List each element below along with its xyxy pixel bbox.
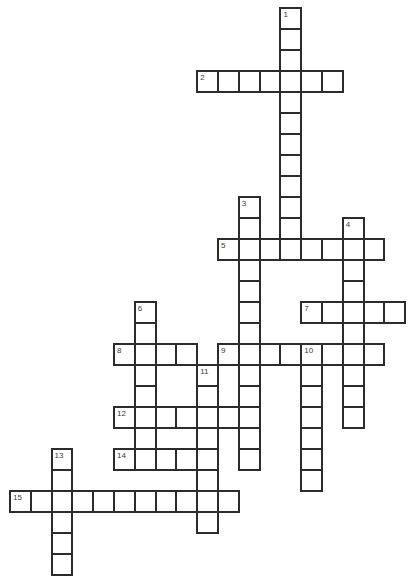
crossword-cell[interactable]	[363, 238, 386, 261]
crossword-cell[interactable]	[279, 175, 302, 198]
crossword-cell[interactable]	[363, 343, 386, 366]
crossword-cell[interactable]	[134, 364, 157, 387]
crossword-cell[interactable]	[300, 427, 323, 450]
crossword-cell[interactable]	[134, 427, 157, 450]
crossword-cell[interactable]	[238, 427, 261, 450]
crossword-cell[interactable]	[51, 511, 74, 534]
crossword-cell[interactable]: 14	[113, 448, 136, 471]
crossword-cell[interactable]	[300, 70, 323, 93]
crossword-cell[interactable]	[134, 448, 157, 471]
crossword-cell[interactable]	[155, 448, 178, 471]
crossword-cell[interactable]	[238, 301, 261, 324]
crossword-cell[interactable]: 6	[134, 301, 157, 324]
crossword-cell[interactable]	[134, 490, 157, 513]
crossword-cell[interactable]	[279, 70, 302, 93]
crossword-cell[interactable]	[238, 448, 261, 471]
crossword-cell[interactable]	[342, 406, 365, 429]
crossword-cell[interactable]	[300, 238, 323, 261]
crossword-cell[interactable]	[342, 343, 365, 366]
crossword-cell[interactable]	[279, 238, 302, 261]
crossword-cell[interactable]	[175, 406, 198, 429]
crossword-cell[interactable]	[196, 427, 219, 450]
crossword-cell[interactable]	[342, 280, 365, 303]
crossword-cell[interactable]	[217, 70, 240, 93]
crossword-cell[interactable]	[342, 322, 365, 345]
crossword-cell[interactable]	[196, 385, 219, 408]
crossword-cell[interactable]: 5	[217, 238, 240, 261]
crossword-cell[interactable]	[175, 448, 198, 471]
crossword-cell[interactable]	[238, 70, 261, 93]
crossword-cell[interactable]	[238, 280, 261, 303]
crossword-cell[interactable]	[300, 385, 323, 408]
crossword-cell[interactable]	[238, 406, 261, 429]
crossword-cell[interactable]	[51, 490, 74, 513]
crossword-cell[interactable]	[300, 448, 323, 471]
crossword-cell[interactable]	[238, 217, 261, 240]
crossword-cell[interactable]	[363, 301, 386, 324]
crossword-cell[interactable]	[92, 490, 115, 513]
crossword-cell[interactable]	[279, 217, 302, 240]
crossword-cell[interactable]	[321, 238, 344, 261]
crossword-cell[interactable]	[51, 532, 74, 555]
crossword-cell[interactable]: 7	[300, 301, 323, 324]
crossword-cell[interactable]	[279, 343, 302, 366]
crossword-cell[interactable]	[196, 448, 219, 471]
crossword-cell[interactable]	[300, 364, 323, 387]
crossword-cell[interactable]	[279, 133, 302, 156]
crossword-cell[interactable]	[342, 238, 365, 261]
crossword-cell[interactable]: 3	[238, 196, 261, 219]
crossword-cell[interactable]	[342, 364, 365, 387]
crossword-cell[interactable]	[238, 322, 261, 345]
crossword-cell[interactable]	[134, 385, 157, 408]
crossword-cell[interactable]	[175, 490, 198, 513]
crossword-cell[interactable]	[300, 406, 323, 429]
crossword-cell[interactable]	[238, 238, 261, 261]
crossword-cell[interactable]	[279, 196, 302, 219]
crossword-cell[interactable]	[342, 301, 365, 324]
crossword-cell[interactable]	[279, 28, 302, 51]
crossword-cell[interactable]	[71, 490, 94, 513]
crossword-cell[interactable]	[217, 406, 240, 429]
crossword-cell[interactable]	[238, 385, 261, 408]
crossword-cell[interactable]: 12	[113, 406, 136, 429]
crossword-cell[interactable]	[321, 301, 344, 324]
crossword-cell[interactable]	[321, 70, 344, 93]
crossword-cell[interactable]	[30, 490, 53, 513]
crossword-cell[interactable]	[155, 343, 178, 366]
crossword-cell[interactable]	[383, 301, 406, 324]
crossword-cell[interactable]: 15	[9, 490, 32, 513]
crossword-cell[interactable]: 13	[51, 448, 74, 471]
crossword-cell[interactable]	[321, 343, 344, 366]
crossword-cell[interactable]	[175, 343, 198, 366]
crossword-cell[interactable]: 2	[196, 70, 219, 93]
crossword-cell[interactable]	[279, 49, 302, 72]
crossword-cell[interactable]: 8	[113, 343, 136, 366]
crossword-cell[interactable]	[238, 259, 261, 282]
crossword-cell[interactable]	[279, 91, 302, 114]
crossword-cell[interactable]	[342, 259, 365, 282]
crossword-cell[interactable]: 10	[300, 343, 323, 366]
crossword-cell[interactable]	[279, 154, 302, 177]
crossword-cell[interactable]	[196, 490, 219, 513]
crossword-cell[interactable]	[238, 343, 261, 366]
crossword-cell[interactable]	[134, 322, 157, 345]
crossword-cell[interactable]	[300, 469, 323, 492]
crossword-cell[interactable]	[196, 469, 219, 492]
crossword-cell[interactable]: 1	[279, 7, 302, 30]
crossword-cell[interactable]	[238, 364, 261, 387]
crossword-cell[interactable]	[51, 553, 74, 576]
crossword-cell[interactable]	[279, 112, 302, 135]
crossword-cell[interactable]	[259, 70, 282, 93]
crossword-cell[interactable]: 4	[342, 217, 365, 240]
crossword-cell[interactable]	[51, 469, 74, 492]
crossword-cell[interactable]	[155, 490, 178, 513]
crossword-cell[interactable]	[134, 343, 157, 366]
crossword-cell[interactable]	[113, 490, 136, 513]
crossword-cell[interactable]	[196, 511, 219, 534]
crossword-cell[interactable]	[196, 406, 219, 429]
crossword-cell[interactable]: 11	[196, 364, 219, 387]
crossword-cell[interactable]: 9	[217, 343, 240, 366]
crossword-cell[interactable]	[259, 343, 282, 366]
crossword-cell[interactable]	[259, 238, 282, 261]
crossword-cell[interactable]	[155, 406, 178, 429]
